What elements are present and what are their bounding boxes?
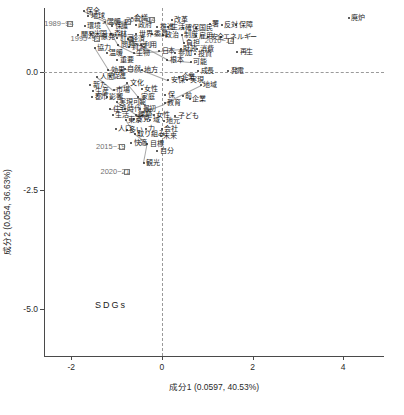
word-point [348, 17, 350, 19]
word-point [87, 15, 89, 17]
word-point [145, 128, 147, 130]
word-label: 女性 [144, 85, 158, 93]
word-point [133, 52, 135, 54]
word-point [107, 69, 109, 71]
x-tick-mark [343, 356, 344, 360]
y-axis-line [44, 8, 45, 356]
word-point [83, 10, 85, 12]
word-point [134, 133, 136, 135]
group-label: 2020~21 [101, 169, 130, 177]
word-point [183, 42, 185, 44]
word-point [94, 47, 96, 49]
word-point [117, 44, 119, 46]
word-label: 制度 [184, 31, 198, 39]
word-label: 再生 [240, 48, 254, 56]
word-point [158, 50, 160, 52]
word-point [137, 96, 139, 98]
y-tick-mark [40, 72, 44, 73]
y-tick-mark [40, 309, 44, 310]
word-point [96, 76, 98, 78]
group-label: 2000~04 [126, 16, 155, 24]
word-point [236, 51, 238, 53]
word-point [164, 94, 166, 96]
word-point [130, 142, 132, 144]
word-point [194, 53, 196, 55]
word-point [161, 128, 163, 130]
word-point [171, 19, 173, 21]
word-label: 日本 [162, 47, 176, 55]
word-label: 反対 [224, 21, 238, 29]
x-axis-line [44, 356, 384, 357]
word-point [126, 82, 128, 84]
word-point [141, 69, 143, 71]
word-point [156, 150, 158, 152]
word-point [164, 102, 166, 104]
word-label: 観光 [146, 159, 160, 167]
word-label: 根本 [170, 56, 184, 64]
word-label: 取り組み [137, 131, 164, 139]
word-point [163, 120, 165, 122]
word-label: 前 [185, 92, 192, 100]
y-tick-label: -2.5 [23, 185, 38, 195]
scatter-plot-figure: 0.0-2.5-5.0 -2024 保全地球環境温暖保護会議政府改革推進生活確保… [0, 0, 404, 415]
word-label: 重要 [120, 56, 134, 64]
vertical-reference-line [162, 8, 163, 356]
word-label: 発電 [231, 67, 245, 75]
x-tick-label: 4 [341, 362, 346, 372]
y-tick-label: -5.0 [23, 304, 38, 314]
word-label: 教育 [167, 99, 181, 107]
word-label: 国民 [199, 24, 213, 32]
word-label: 生物 [136, 49, 150, 57]
word-point [84, 25, 86, 27]
y-axis-label: 成分2 (0.054, 36.63%) [0, 169, 12, 255]
word-label: 原発 [101, 33, 115, 41]
word-label: 企業 [192, 96, 206, 104]
word-point [141, 88, 143, 90]
x-tick-label: 2 [250, 362, 255, 372]
word-label: 促進 [113, 72, 127, 80]
x-tick-mark [162, 356, 163, 360]
word-label: 未来 [163, 133, 177, 141]
y-tick-label: 0.0 [26, 67, 38, 77]
word-label: 環境 [87, 23, 101, 31]
figure-caption-clipped [0, 404, 404, 415]
word-point [115, 128, 117, 130]
word-point [200, 84, 202, 86]
x-tick-mark [253, 356, 254, 360]
word-label: 安保 [171, 77, 185, 85]
word-point [182, 95, 184, 97]
word-label: 実現 [190, 77, 204, 85]
group-label: 1995~99 [71, 35, 100, 43]
word-point [106, 52, 108, 54]
group-label: 2010~14 [205, 37, 234, 45]
word-label: 自分 [160, 147, 174, 155]
word-label: 子ども [178, 113, 198, 121]
word-point [156, 26, 158, 28]
word-label: 生活 [115, 111, 129, 119]
word-label: 都市 [95, 93, 109, 101]
word-point [112, 114, 114, 116]
y-tick-mark [40, 190, 44, 191]
word-label: 署 [212, 20, 219, 28]
word-label: 域 [153, 116, 160, 124]
word-point [116, 101, 118, 103]
word-label: 保障 [239, 21, 253, 29]
word-label: 保 [168, 91, 175, 99]
word-label: 快適 [134, 139, 148, 147]
word-point [89, 84, 91, 86]
word-point [143, 162, 145, 164]
word-point [91, 96, 93, 98]
word-point [227, 70, 229, 72]
x-tick-mark [71, 356, 72, 360]
word-label: 利用 [144, 42, 158, 50]
word-label: 自然 [127, 65, 141, 73]
word-point [116, 59, 118, 61]
x-axis-label: 成分1 (0.0597, 40.53%) [169, 380, 259, 392]
word-label: 地元 [166, 117, 180, 125]
word-label: 成長 [201, 67, 215, 75]
group-label: 2015~19 [96, 143, 125, 151]
group-label: 1989~94 [44, 20, 73, 28]
word-point [221, 24, 223, 26]
word-label: 地域 [203, 81, 217, 89]
word-point [181, 34, 183, 36]
